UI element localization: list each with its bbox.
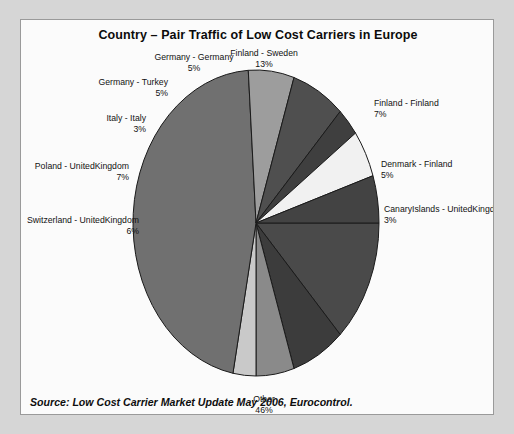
source-note: Source: Low Cost Carrier Market Update M… <box>30 396 353 408</box>
pie-slice-label-name: Poland - UnitedKingdom <box>35 161 129 171</box>
pie-slice-label-percent: 7% <box>374 109 439 120</box>
pie-slice-label: Denmark - Finland5% <box>381 159 452 181</box>
pie-slice-label-name: Denmark - Finland <box>381 159 452 169</box>
pie-slice-label-percent: 5% <box>21 88 168 99</box>
pie-slice-label-percent: 5% <box>104 63 284 74</box>
pie-slice-label: CanaryIslands - UnitedKingdom3% <box>384 204 494 226</box>
pie-slice-label-name: Germany - Turkey <box>98 77 168 87</box>
pie-slice-label-name: Germany - Germany <box>154 52 233 62</box>
pie-slice-label: Switzerland - UnitedKingdom6% <box>21 215 139 237</box>
pie-slice-label-percent: 3% <box>384 215 494 226</box>
pie-slice-label: Finland - Finland7% <box>374 98 439 120</box>
pie-slice-label: Poland - UnitedKingdom7% <box>21 161 129 183</box>
pie-slice-label-percent: 3% <box>21 124 146 135</box>
pie-slice <box>133 70 256 373</box>
pie-slice-label: Italy - Italy3% <box>21 113 146 135</box>
pie-slice-label-percent: 6% <box>21 226 139 237</box>
pie-slice-label-name: Switzerland - UnitedKingdom <box>27 215 139 225</box>
pie-slice-label-name: Finland - Finland <box>374 98 439 108</box>
screenshot-root: Country – Pair Traffic of Low Cost Carri… <box>0 0 514 434</box>
pie-slice-label-name: Italy - Italy <box>106 113 146 123</box>
pie-slice-label: Germany - Turkey5% <box>21 77 168 99</box>
pie-slice-label-name: CanaryIslands - UnitedKingdom <box>384 204 494 214</box>
chart-panel: Country – Pair Traffic of Low Cost Carri… <box>20 19 494 415</box>
pie-slice-label: Germany - Germany5% <box>104 52 284 74</box>
pie-slice-label-percent: 7% <box>21 172 129 183</box>
pie-slice-label-percent: 5% <box>381 170 452 181</box>
